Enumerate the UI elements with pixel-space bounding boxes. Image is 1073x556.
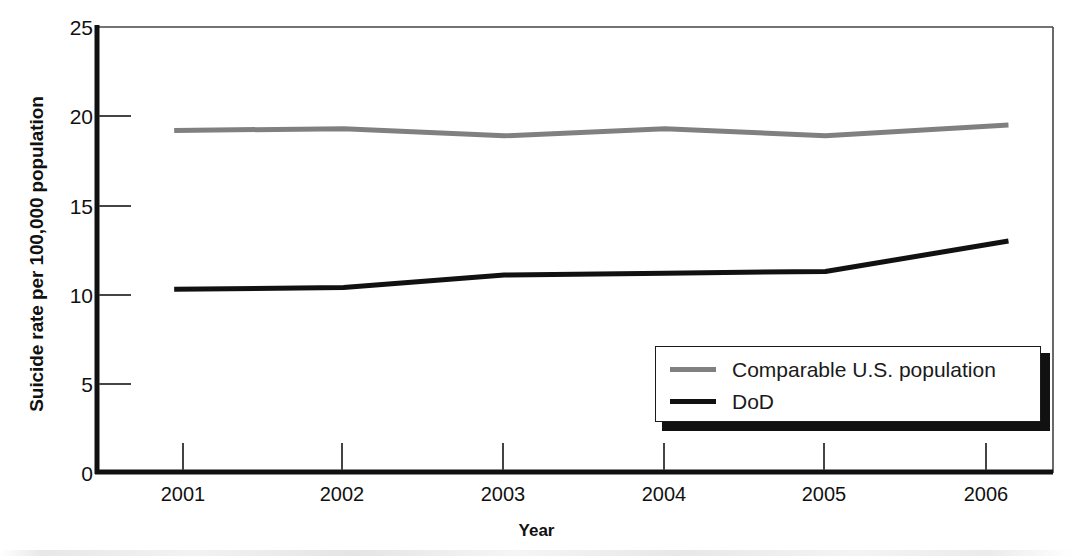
legend-entry-dod: DoD — [670, 384, 774, 418]
y-axis-ticks — [99, 116, 131, 384]
line-chart-figure: Suicide rate per 100,000 population 25 2… — [0, 0, 1073, 556]
legend: Comparable U.S. population DoD — [655, 346, 1043, 424]
x-axis-ticks — [183, 443, 986, 470]
series-line-comparable-us-population — [174, 125, 1008, 136]
legend-box: Comparable U.S. population DoD — [655, 346, 1041, 422]
series-line-dod — [174, 241, 1008, 289]
legend-swatch-line-icon-dod — [670, 399, 716, 404]
plot-area — [0, 0, 1073, 556]
legend-swatch-line-icon-comparable-us-population — [670, 367, 716, 372]
legend-label-comparable-us-population: Comparable U.S. population — [732, 359, 996, 380]
legend-label-dod: DoD — [732, 391, 774, 412]
scan-artifact — [0, 550, 1073, 556]
legend-entry-comparable-us-population: Comparable U.S. population — [670, 352, 996, 386]
